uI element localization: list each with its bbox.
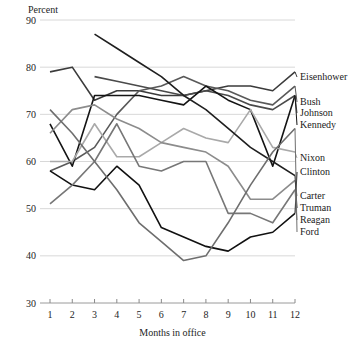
x-tick-label-3: 3: [92, 309, 97, 320]
x-tick-label-2: 2: [70, 309, 75, 320]
x-tick-label-6: 6: [159, 309, 164, 320]
x-tick-label-12: 12: [290, 309, 300, 320]
y-tick-label-60: 60: [26, 156, 36, 167]
presidential-approval-line-chart: 30405060708090123456789101112PercentMont…: [0, 0, 356, 351]
series-line-kennedy: [50, 86, 295, 166]
series-line-eisenhower: [50, 67, 295, 100]
chart-canvas: 30405060708090123456789101112PercentMont…: [0, 0, 356, 351]
y-tick-label-30: 30: [26, 298, 36, 309]
x-tick-label-11: 11: [268, 309, 278, 320]
series-label-truman: Truman: [300, 202, 331, 213]
series-line-truman: [95, 34, 295, 176]
x-tick-label-9: 9: [226, 309, 231, 320]
series-label-carter: Carter: [300, 190, 326, 201]
series-label-ford: Ford: [300, 226, 319, 237]
x-axis-title: Months in office: [139, 327, 206, 338]
x-tick-label-1: 1: [48, 309, 53, 320]
series-label-kennedy: Kennedy: [300, 119, 336, 130]
series-label-johnson: Johnson: [300, 107, 333, 118]
leader-line-eisenhower: [295, 72, 297, 77]
series-line-ford: [50, 110, 295, 261]
y-tick-label-70: 70: [26, 109, 36, 120]
series-label-bush: Bush: [300, 96, 321, 107]
series-label-eisenhower: Eisenhower: [300, 71, 348, 82]
series-line-nixon: [50, 110, 295, 162]
series-label-reagan: Reagan: [300, 214, 330, 225]
y-tick-label-90: 90: [26, 15, 36, 26]
y-tick-label-80: 80: [26, 62, 36, 73]
x-tick-label-7: 7: [181, 309, 186, 320]
x-tick-label-5: 5: [137, 309, 142, 320]
x-tick-label-4: 4: [114, 309, 119, 320]
y-tick-label-40: 40: [26, 250, 36, 261]
x-tick-label-8: 8: [203, 309, 208, 320]
series-label-nixon: Nixon: [300, 152, 325, 163]
x-tick-label-10: 10: [245, 309, 255, 320]
y-tick-label-50: 50: [26, 203, 36, 214]
y-axis-title: Percent: [28, 4, 58, 15]
series-label-clinton: Clinton: [300, 166, 330, 177]
